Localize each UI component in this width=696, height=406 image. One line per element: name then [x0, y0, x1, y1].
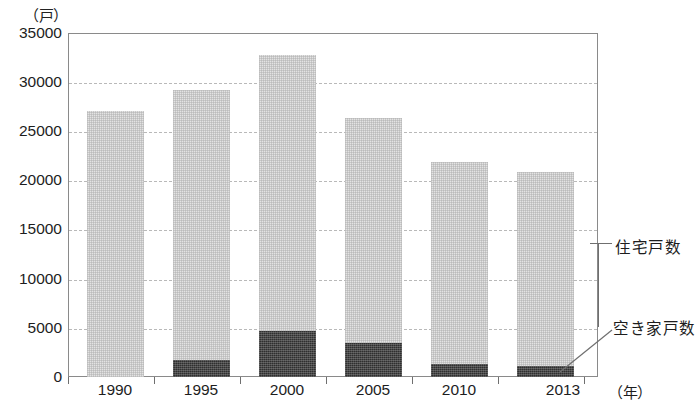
- x-tick-4: [412, 377, 413, 384]
- x-tick-label-2010: 2010: [442, 381, 476, 399]
- bar-total-2013: [517, 172, 574, 377]
- y-tick-label-25000: 25000: [0, 122, 62, 140]
- bar-total-2010: [431, 162, 488, 377]
- bar-total-1990: [87, 111, 144, 377]
- bar-total-2005: [345, 118, 402, 377]
- bar-vacant-2010: [431, 364, 488, 377]
- x-tick-3: [326, 377, 327, 384]
- y-axis-labels: 35000 30000 25000 20000 15000 10000 5000…: [0, 0, 62, 406]
- x-tick-label-2005: 2005: [356, 381, 390, 399]
- chart-screenshot: （戸） 35000 30000 25000 20000 15000 10000 …: [0, 0, 696, 406]
- bar-total-2000: [259, 55, 316, 377]
- y-tick-label-0: 0: [0, 368, 62, 386]
- x-tick-0: [68, 377, 69, 384]
- x-tick-2: [240, 377, 241, 384]
- y-tick-label-5000: 5000: [0, 319, 62, 337]
- x-tick-label-1990: 1990: [98, 381, 132, 399]
- bar-vacant-2000: [259, 331, 316, 377]
- bar-vacant-2013: [517, 366, 574, 377]
- y-tick-label-35000: 35000: [0, 24, 62, 42]
- x-tick-1: [154, 377, 155, 384]
- x-axis-unit-caption: （年）: [608, 381, 652, 402]
- x-tick-label-2000: 2000: [270, 381, 304, 399]
- x-tick-6: [584, 377, 585, 384]
- bar-total-1995: [173, 90, 230, 377]
- bars-layer: [68, 33, 598, 377]
- legend-label-total: 住宅戸数: [615, 235, 681, 257]
- x-tick-5: [498, 377, 499, 384]
- y-tick-label-15000: 15000: [0, 220, 62, 238]
- bar-vacant-1995: [173, 360, 230, 377]
- y-tick-label-10000: 10000: [0, 270, 62, 288]
- y-tick-label-20000: 20000: [0, 171, 62, 189]
- x-tick-label-2013: 2013: [546, 381, 580, 399]
- y-tick-label-30000: 30000: [0, 73, 62, 91]
- leader-line-total-stub: [598, 243, 599, 327]
- x-tick-label-1995: 1995: [184, 381, 218, 399]
- bar-vacant-2005: [345, 343, 402, 377]
- legend-label-vacant: 空き家戸数: [613, 316, 696, 338]
